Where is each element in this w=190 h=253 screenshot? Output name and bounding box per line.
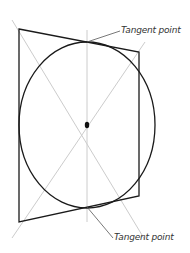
top-tangent-label: Tangent point [121,25,180,35]
top-leader-line [87,31,120,42]
quadrilateral-outline [19,29,139,222]
center-point [85,122,89,128]
tangent-diagram [0,0,190,253]
bottom-leader-line [87,207,113,238]
bottom-tangent-label: Tangent point [114,232,173,242]
